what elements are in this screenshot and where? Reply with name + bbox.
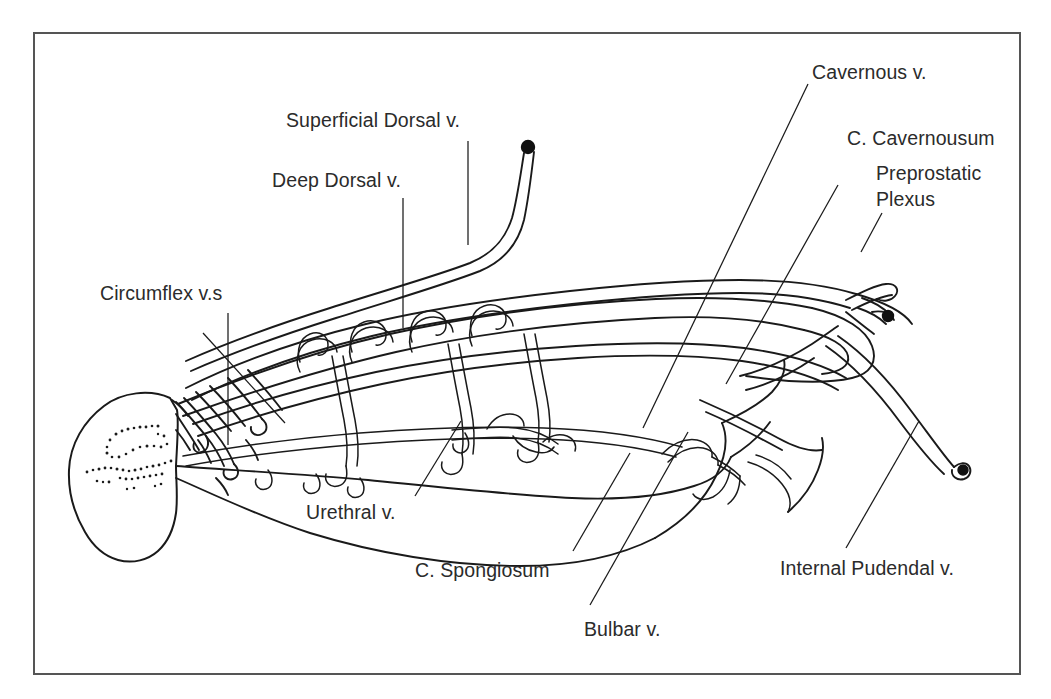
preprostatic-plexus xyxy=(846,284,897,334)
corpus-cavernosum-body xyxy=(178,298,874,416)
preprostatic-tip-dot xyxy=(883,311,894,322)
label-cavernous-v: Cavernous v. xyxy=(812,60,927,85)
label-bulbar-v: Bulbar v. xyxy=(584,617,660,642)
internal-pudendal-tip-dot xyxy=(958,465,968,475)
label-superficial-dorsal-v: Superficial Dorsal v. xyxy=(286,108,460,133)
leader-bulbar xyxy=(590,432,688,605)
circumflex-veins xyxy=(172,370,282,495)
emissary-branches xyxy=(256,305,550,498)
bulbar-vein-arbor xyxy=(662,440,791,512)
leader-urethral xyxy=(415,421,461,496)
label-c-cavernousum: C. Cavernousum xyxy=(847,126,995,151)
urethral-branch-arbor xyxy=(452,414,576,454)
internal-pudendal-vein xyxy=(700,326,970,512)
leader-pudendal xyxy=(846,421,919,548)
label-deep-dorsal-v: Deep Dorsal v. xyxy=(272,168,401,193)
label-urethral-v: Urethral v. xyxy=(306,500,396,525)
leader-circumflex-diagonal xyxy=(203,333,285,423)
leader-spongiosum xyxy=(573,453,630,551)
label-c-spongiosum: C. Spongiosum xyxy=(415,558,550,583)
diagram-canvas xyxy=(0,0,1051,699)
anatomical-figure: Superficial Dorsal v. Deep Dorsal v. Cir… xyxy=(0,0,1051,699)
leader-preprostatic xyxy=(861,213,882,252)
label-preprostatic-plexus: Preprostatic Plexus xyxy=(876,160,981,212)
label-internal-pudendal-v: Internal Pudendal v. xyxy=(780,556,954,581)
glans-penis xyxy=(69,393,178,562)
label-circumflex-vs: Circumflex v.s xyxy=(100,281,222,306)
superficial-dorsal-tip-dot xyxy=(522,141,535,154)
